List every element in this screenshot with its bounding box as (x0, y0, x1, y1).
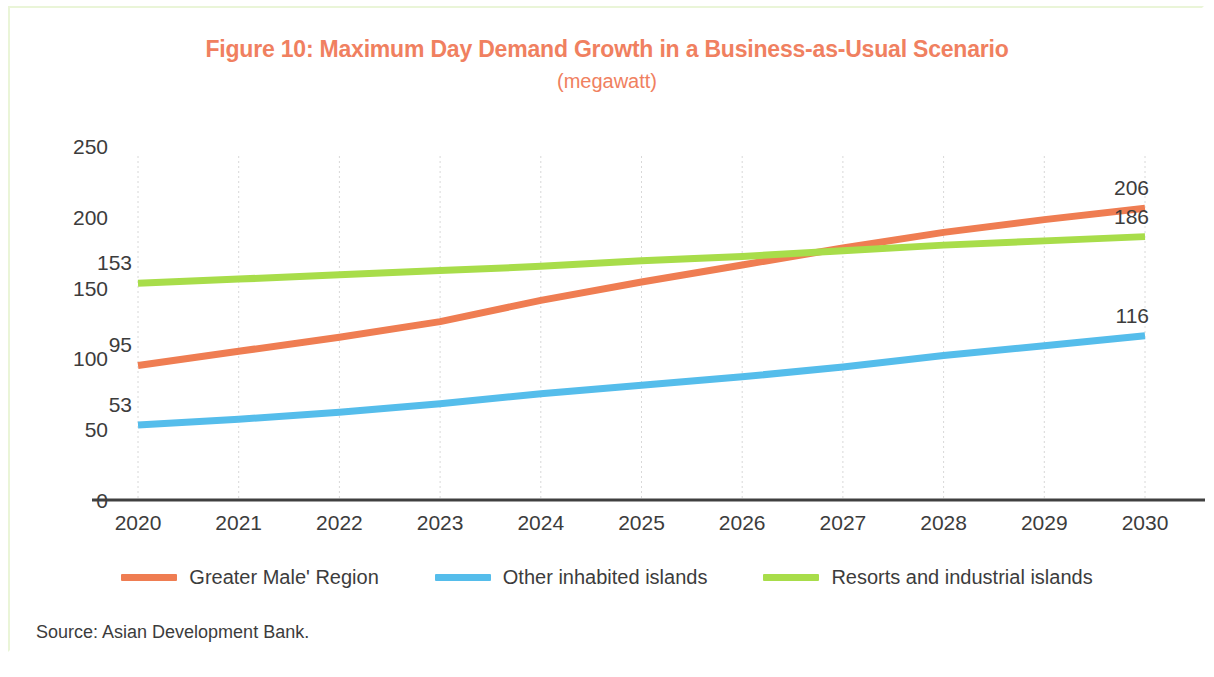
y-tick-250: 250 (73, 135, 108, 158)
source-note: Source: Asian Development Bank. (36, 622, 309, 643)
start-label-other-inhabited-islands: 53 (109, 393, 132, 416)
y-tick-200: 200 (73, 206, 108, 229)
x-tick-2030: 2030 (1122, 511, 1169, 534)
y-tick-150: 150 (73, 277, 108, 300)
legend-label-greater-male-region: Greater Male' Region (189, 566, 378, 589)
gridlines (138, 156, 1145, 500)
x-tick-2029: 2029 (1021, 511, 1068, 534)
chart-legend: Greater Male' RegionOther inhabited isla… (0, 566, 1214, 589)
start-label-greater-male-region: 95 (109, 333, 132, 356)
legend-swatch-resorts-and-industrial-islands (763, 574, 819, 581)
x-tick-2021: 2021 (215, 511, 262, 534)
x-axis-tick-labels: 2020202120222023202420252026202720282029… (115, 511, 1169, 534)
legend-label-resorts-and-industrial-islands: Resorts and industrial islands (831, 566, 1092, 589)
legend-label-other-inhabited-islands: Other inhabited islands (503, 566, 708, 589)
x-tick-2026: 2026 (719, 511, 766, 534)
legend-item-resorts-and-industrial-islands[interactable]: Resorts and industrial islands (763, 566, 1092, 589)
line-chart-svg: 050100150200250 202020212022202320242025… (0, 0, 1214, 560)
end-label-greater-male-region: 206 (1114, 176, 1149, 199)
legend-item-greater-male-region[interactable]: Greater Male' Region (121, 566, 378, 589)
x-tick-2028: 2028 (920, 511, 967, 534)
legend-swatch-other-inhabited-islands (435, 574, 491, 581)
end-label-resorts-and-industrial-islands: 186 (1114, 205, 1149, 228)
legend-item-other-inhabited-islands[interactable]: Other inhabited islands (435, 566, 708, 589)
end-label-other-inhabited-islands: 116 (1116, 304, 1149, 327)
x-tick-2027: 2027 (820, 511, 867, 534)
y-tick-100: 100 (73, 347, 108, 370)
x-tick-2022: 2022 (316, 511, 363, 534)
x-tick-2023: 2023 (417, 511, 464, 534)
x-tick-2025: 2025 (618, 511, 665, 534)
start-label-resorts-and-industrial-islands: 153 (97, 251, 132, 274)
y-axis-tick-labels: 050100150200250 (73, 135, 108, 512)
y-tick-50: 50 (85, 418, 108, 441)
x-tick-2024: 2024 (517, 511, 564, 534)
legend-swatch-greater-male-region (121, 574, 177, 581)
data-point-labels: 9520653116153186 (97, 176, 1149, 416)
x-tick-2020: 2020 (115, 511, 162, 534)
